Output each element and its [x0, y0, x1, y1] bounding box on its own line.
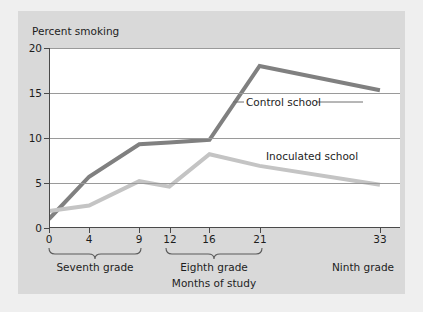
grade-brackets	[18, 247, 405, 261]
y-axis-tick-5: 5	[18, 177, 42, 189]
grade-label-eighth: Eighth grade	[180, 261, 248, 273]
y-axis-tick-0: 0	[18, 222, 42, 234]
gridline-20	[49, 48, 400, 49]
plot-area	[49, 48, 400, 228]
gridline-5	[49, 183, 400, 184]
y-axis-tick-15: 15	[18, 87, 42, 99]
x-axis-tick-21: 21	[253, 233, 266, 245]
x-axis-tick-33: 33	[373, 233, 386, 245]
y-axis-tick-20: 20	[18, 42, 42, 54]
y-axis-tick-10: 10	[18, 132, 42, 144]
y-axis-line	[49, 48, 50, 228]
x-axis-tick-0: 0	[46, 233, 53, 245]
series-label-inoculated: Inoculated school	[266, 150, 358, 162]
x-axis-tick-9: 9	[136, 233, 143, 245]
chart-title: Percent smoking	[32, 25, 119, 37]
grade-label-ninth: Ninth grade	[332, 261, 394, 273]
gridline-10	[49, 138, 400, 139]
x-axis-title: Months of study	[172, 277, 256, 289]
bracket-eighth-grade	[166, 248, 262, 259]
grade-label-seventh: Seventh grade	[56, 261, 133, 273]
line-control-school	[49, 66, 380, 219]
x-axis-tick-16: 16	[202, 233, 215, 245]
gridline-15	[49, 93, 400, 94]
x-axis-line	[49, 227, 400, 229]
chart-figure: Percent smoking 20 15 10 5 0 Control sch…	[18, 11, 405, 294]
x-axis-tick-4: 4	[86, 233, 93, 245]
bracket-seventh-grade	[49, 248, 141, 259]
x-axis-tick-12: 12	[163, 233, 176, 245]
series-label-control: Control school	[246, 96, 321, 108]
